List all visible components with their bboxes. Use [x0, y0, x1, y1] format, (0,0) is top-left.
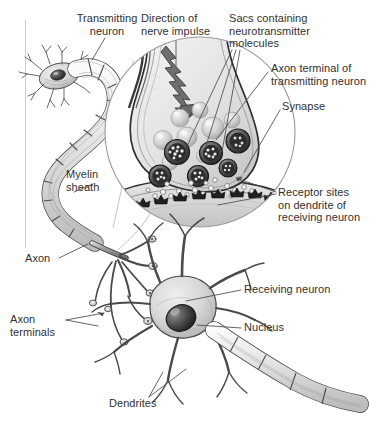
magnified-synapse-circle: [100, 30, 300, 235]
receiving-neuron-figure: [92, 214, 361, 407]
receiving-neuron-axon: [214, 330, 361, 407]
neuron-synapse-illustration: [0, 0, 379, 424]
diagram-canvas: Transmitting neuron Direction of nerve i…: [0, 0, 379, 424]
